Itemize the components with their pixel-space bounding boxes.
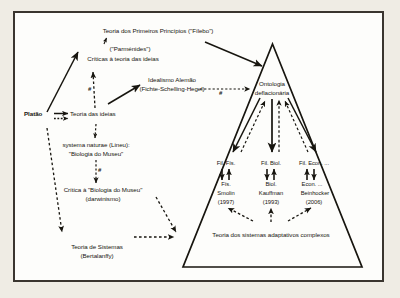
arrow-ontologia-to-fil-econ — [288, 98, 316, 152]
arrow-primeiros-principios-to-ontologia — [205, 42, 262, 66]
arrow-pair-economia — [307, 169, 314, 180]
node-critica-biologia-line2: (darwinismo) — [86, 195, 121, 203]
arrow-ideias-to-systema — [95, 124, 96, 138]
diagram-canvas: Teoria dos Primeiros Princípios ("Fílebo… — [0, 0, 400, 298]
node-systema-naturae-line2: "Biologia do Museu" — [69, 150, 123, 158]
arrow-pair-fisica — [222, 169, 229, 180]
node-ciencia-fisica: Fís. — [221, 181, 230, 188]
node-autor-kauffman: Kauffman — [259, 190, 283, 197]
arrow-parmenides-marker — [104, 38, 107, 44]
node-teoria-sistemas-line1: Teoria de Sistemas — [71, 243, 123, 251]
arrow-base-to-fisica — [228, 208, 253, 221]
hash-marker-idealismo: # — [219, 90, 222, 96]
node-teoria-sistemas-adaptativos-complexos: Teoria dos sistemas adaptativos complexo… — [212, 231, 329, 239]
arrow-ideias-to-criticas — [93, 72, 95, 108]
arrow-platao-to-teoria-ideias — [54, 114, 68, 119]
node-ano-smolin: (1997) — [218, 199, 234, 206]
node-systema-naturae-line1: systema naturae (Lineu): — [62, 141, 129, 149]
arrow-fil-econ-to-ontologia — [285, 101, 308, 152]
node-ciencia-biologia: Biol. — [265, 181, 276, 188]
arrow-base-to-economia — [288, 208, 311, 221]
diagram-strokes — [0, 0, 400, 298]
node-ano-beinhocker: (2006) — [306, 199, 322, 206]
node-fil-fisica: Fil. Fís. — [217, 160, 236, 167]
arrow-critica-to-triangle — [156, 197, 176, 232]
node-fil-biologia: Fil. Biol. — [261, 160, 281, 167]
node-ciencia-economia: Econ. ... — [302, 181, 323, 188]
hash-marker-criticas: # — [88, 86, 91, 92]
hash-marker-systema: # — [98, 167, 101, 173]
node-platao: Platão — [24, 110, 42, 118]
node-teoria-das-ideias: Teoria das ideias — [70, 110, 116, 118]
arrow-to-idealismo-alemao — [108, 85, 140, 104]
arrow-fil-fis-to-ontologia — [241, 101, 265, 152]
node-ontologia-deflacionaria-line1: Ontologia — [259, 80, 285, 88]
node-criticas-teoria-ideias: Críticas à teoria das ideias — [87, 55, 159, 63]
node-autor-smolin: Smolin — [217, 190, 234, 197]
node-teoria-sistemas-line2: (Bertalanffy) — [81, 252, 114, 260]
node-critica-biologia-line1: Crítica à "Biologia do Museu" — [64, 186, 143, 194]
node-idealismo-alemao-line2: (Fichte-Schelling-Hegel) — [139, 85, 204, 93]
node-idealismo-alemao-line1: Idealismo Alemão — [148, 76, 196, 84]
node-autor-beinhocker: Beinhocker — [301, 190, 330, 197]
arrow-platao-to-teoria-sistemas — [47, 128, 62, 232]
node-ontologia-deflacionaria-line2: deflacionária — [255, 89, 289, 97]
node-fil-economia: Fil. Econ. ... — [299, 160, 329, 167]
arrow-ontologia-to-fil-fis — [233, 98, 260, 152]
node-ano-kauffman: (1993) — [263, 199, 279, 206]
arrow-platao-to-primeiros-principios — [47, 52, 78, 112]
node-primeiros-principios: Teoria dos Primeiros Princípios ("Fílebo… — [103, 27, 214, 35]
node-parmenides: ("Parménides") — [110, 45, 151, 53]
arrow-pair-biologia — [267, 169, 274, 180]
